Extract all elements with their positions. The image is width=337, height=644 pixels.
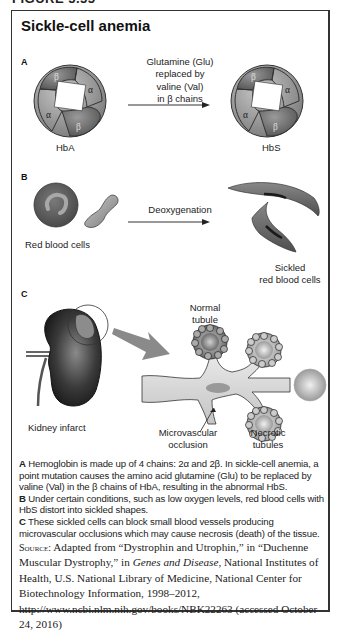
caption-a-text: Hemoglobin is made up of 4 chains: 2α an… bbox=[19, 458, 318, 492]
source-label: Source: bbox=[19, 542, 51, 553]
caption-b-text: Under certain conditions, such as low ox… bbox=[19, 493, 324, 516]
hbs-subunit-beta-2: β bbox=[273, 121, 278, 133]
figure-caption: A Hemoglobin is made up of 4 chains: 2α … bbox=[19, 458, 324, 539]
source-italic-title: Genes and Disease bbox=[133, 556, 219, 568]
section-b-label: B bbox=[21, 172, 28, 182]
hbs-molecule-illustration bbox=[229, 63, 305, 139]
kidney-illustration bbox=[20, 306, 120, 416]
caption-c-label: C bbox=[19, 516, 26, 527]
hba-subunit-beta-2: β bbox=[76, 121, 81, 133]
mutation-description: Glutamine (Glu) replaced by valine (Val)… bbox=[130, 56, 230, 106]
caption-c-text: These sickled cells can block small bloo… bbox=[19, 516, 320, 539]
caption-b-label: B bbox=[19, 493, 26, 504]
hba-subunit-alpha-2: α bbox=[46, 109, 51, 121]
deoxygenation-label: Deoxygenation bbox=[130, 204, 230, 216]
figure-heading: FIGURE 5.55 bbox=[12, 0, 96, 6]
source-citation: Source: Adapted from “Dystrophin and Utr… bbox=[19, 540, 324, 632]
sickled-label: Sickled red blood cells bbox=[250, 262, 330, 286]
caption-a-label: A bbox=[19, 458, 26, 469]
mutation-arrow bbox=[128, 101, 210, 109]
hbs-subunit-alpha-2: α bbox=[243, 109, 248, 121]
hbs-label: HbS bbox=[262, 142, 280, 154]
hba-subunit-beta-1: β bbox=[54, 71, 59, 83]
hbs-subunit-alpha-1: α bbox=[285, 84, 290, 96]
deoxygenation-arrow bbox=[128, 218, 210, 226]
red-blood-cell-illustration bbox=[34, 181, 124, 233]
hba-molecule-illustration bbox=[32, 63, 108, 139]
section-a-label: A bbox=[21, 57, 28, 67]
microvascular-occlusion-label: Microvascular occlusion bbox=[148, 427, 228, 451]
necrotic-tubules-label: Necrotic tubules bbox=[243, 427, 293, 451]
section-c-label: C bbox=[21, 289, 28, 299]
normal-tubule-label: Normal tubule bbox=[180, 302, 230, 326]
figure-title: Sickle-cell anemia bbox=[21, 17, 150, 34]
hbs-subunit-beta-1: β bbox=[251, 71, 256, 83]
hba-subunit-alpha-1: α bbox=[88, 84, 93, 96]
sickled-cells-illustration bbox=[224, 180, 324, 262]
rbc-label: Red blood cells bbox=[25, 239, 90, 251]
hba-label: HbA bbox=[56, 142, 74, 154]
kidney-infarct-label: Kidney infarct bbox=[28, 422, 86, 434]
